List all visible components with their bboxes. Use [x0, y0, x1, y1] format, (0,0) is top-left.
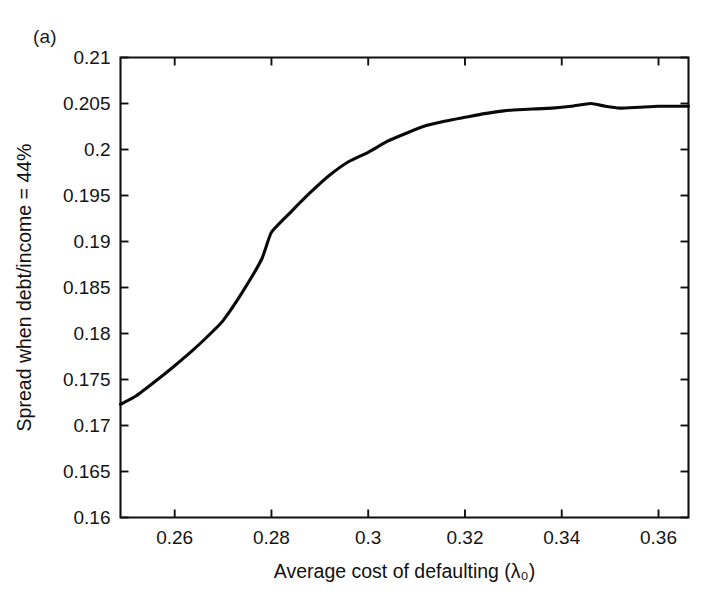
y-tick-label: 0.19 [74, 231, 111, 252]
x-axis-title: Average cost of defaulting (λ₀) [274, 560, 535, 582]
x-tick-label: 0.3 [355, 527, 381, 548]
y-tick-label: 0.185 [63, 277, 111, 298]
x-tick-label: 0.32 [446, 527, 483, 548]
y-tick-label: 0.195 [63, 185, 111, 206]
data-series-spread [121, 104, 689, 405]
x-axis-tick-marks [175, 58, 659, 518]
chart-canvas: 0.160.1650.170.1750.180.1850.190.1950.20… [0, 0, 723, 613]
y-tick-label: 0.21 [74, 47, 111, 68]
figure-panel-a: (a) 0.160.1650.170.1750.180.1850.190.195… [0, 0, 723, 613]
y-tick-label: 0.175 [63, 369, 111, 390]
y-axis-title: Spread when debt/income = 44% [13, 144, 35, 432]
y-tick-label: 0.17 [74, 415, 111, 436]
y-tick-label: 0.205 [63, 93, 111, 114]
y-axis-tick-labels: 0.160.1650.170.1750.180.1850.190.1950.20… [63, 47, 111, 528]
y-tick-label: 0.2 [84, 139, 110, 160]
x-tick-label: 0.34 [543, 527, 580, 548]
x-tick-label: 0.28 [253, 527, 290, 548]
axis-box [121, 58, 689, 518]
y-tick-label: 0.16 [74, 507, 111, 528]
y-tick-label: 0.18 [74, 323, 111, 344]
y-tick-label: 0.165 [63, 461, 111, 482]
y-axis-tick-marks [121, 58, 689, 518]
x-tick-label: 0.36 [640, 527, 677, 548]
x-axis-tick-labels: 0.260.280.30.320.340.36 [156, 527, 677, 548]
x-tick-label: 0.26 [156, 527, 193, 548]
